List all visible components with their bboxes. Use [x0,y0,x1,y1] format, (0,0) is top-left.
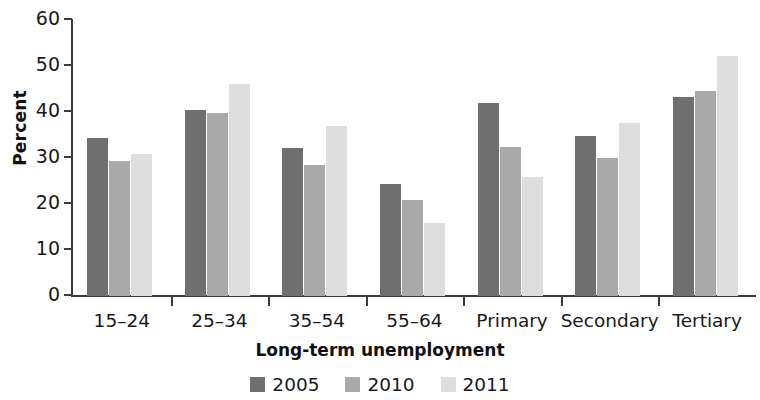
legend-label: 2005 [272,374,319,395]
x-tick-mark [463,297,465,306]
x-axis-title: Long-term unemployment [0,340,760,360]
y-tick-mark [64,18,72,20]
y-tick-label: 10 [26,239,60,258]
bar [575,136,596,296]
y-tick-label: 40 [26,101,60,120]
bar-group [185,19,250,296]
bar [673,97,694,296]
bar-chart: Percent 0102030405060 Long-term unemploy… [0,0,760,400]
bar [424,223,445,296]
bar [229,84,250,296]
bar [402,200,423,296]
legend-label: 2011 [463,374,510,395]
bar-group [87,19,152,296]
bar [717,56,738,296]
legend-item: 2011 [441,374,510,395]
bar [109,161,130,296]
legend-swatch [345,377,360,392]
x-tick-label: Tertiary [648,310,760,331]
bar [695,91,716,296]
x-tick-mark [366,297,368,306]
bar-group [478,19,543,296]
chart-legend: 200520102011 [0,374,760,395]
y-tick-mark [64,202,72,204]
y-tick-label: 50 [26,55,60,74]
bar-group [673,19,738,296]
bar [282,148,303,296]
y-tick-label: 0 [26,285,60,304]
y-tick-label: 20 [26,193,60,212]
bar [304,165,325,296]
bar [619,123,640,296]
bar [597,158,618,296]
y-tick-mark [64,248,72,250]
x-tick-mark [561,297,563,306]
bar-group [575,19,640,296]
legend-swatch [441,377,456,392]
plot-area [73,19,756,296]
y-tick-mark [64,110,72,112]
legend-swatch [250,377,265,392]
bar [185,110,206,296]
y-tick-mark [64,156,72,158]
x-tick-mark [658,297,660,306]
bar [131,154,152,296]
y-tick-mark [64,64,72,66]
bar [500,147,521,296]
bar [326,126,347,296]
y-tick-label: 60 [26,9,60,28]
y-tick-mark [64,294,72,296]
legend-item: 2005 [250,374,319,395]
x-tick-mark [268,297,270,306]
bar [478,103,499,296]
bar-group [282,19,347,296]
y-tick-label: 30 [26,147,60,166]
bar [207,113,228,296]
bar [87,138,108,296]
x-tick-mark [171,297,173,306]
bar [522,177,543,296]
bar [380,184,401,296]
bar-group [380,19,445,296]
legend-label: 2010 [367,374,414,395]
legend-item: 2010 [345,374,414,395]
